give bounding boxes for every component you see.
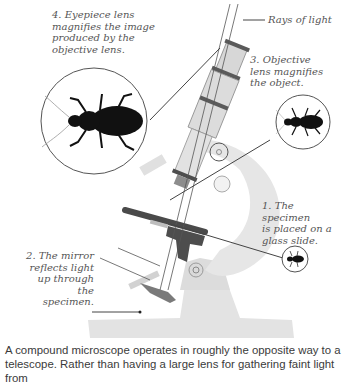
rays-of-light-label: Rays of light <box>268 14 332 26</box>
large-beetle-inset <box>41 68 147 174</box>
specimen-label: 1. The specimen is placed on a glass sli… <box>262 200 345 246</box>
medium-beetle-inset <box>276 95 330 149</box>
objective-label: 3. Objective lens magnifies the object. <box>250 54 323 89</box>
stage <box>125 210 205 262</box>
mirror-label: 2. The mirror reflects light up through … <box>24 250 94 308</box>
caption-text: A compound microscope operates in roughl… <box>5 343 345 385</box>
eyepiece-label: 4. Eyepiece lens magnifies the image pro… <box>52 9 155 55</box>
small-beetle-inset <box>282 246 308 272</box>
